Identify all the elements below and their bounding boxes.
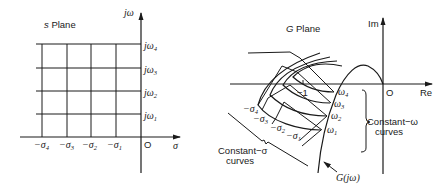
- jw-axis-label: jω: [122, 7, 134, 18]
- g-jw-pointer-arrow: [324, 162, 337, 172]
- re-axis-label: Re: [420, 87, 432, 98]
- tick-jw2: jω2: [142, 87, 158, 99]
- s-plane-grid: [36, 44, 141, 137]
- label-sigma1: −σ1: [286, 130, 301, 142]
- sigma-axis-label: σ: [173, 140, 179, 151]
- constant-sigma-label-2: curves: [226, 155, 254, 166]
- tick-jw3: jω3: [142, 64, 158, 76]
- label-omega1: ω1: [327, 124, 337, 136]
- label-sigma2: −σ2: [270, 122, 286, 134]
- label-omega4: ω4: [338, 86, 349, 98]
- tick-sigma4: −σ4: [34, 139, 50, 151]
- tick-jw4: jω4: [142, 40, 158, 52]
- s-origin-label: O: [144, 139, 151, 150]
- tick-sigma1: −σ1: [107, 139, 122, 151]
- label-sigma3: −σ3: [253, 113, 269, 125]
- s-plane-title: s Plane: [44, 19, 76, 30]
- mapping-diagram: s Plane jω σ O jω4 jω3 jω2 jω1 −σ4 −σ3 −…: [0, 0, 446, 189]
- tick-sigma2: −σ2: [82, 139, 98, 151]
- g-jw-label: G(jω): [336, 172, 360, 184]
- constant-omega-label-2: curves: [375, 126, 403, 137]
- s-plane: s Plane jω σ O jω4 jω3 jω2 jω1 −σ4 −σ3 −…: [20, 7, 180, 173]
- label-omega2: ω2: [331, 110, 342, 122]
- label-omega3: ω3: [334, 98, 345, 110]
- tick-sigma3: −σ3: [59, 139, 75, 151]
- tick-jw1: jω1: [142, 110, 157, 122]
- im-axis-label: Im: [368, 18, 379, 29]
- g-plane-title: G Plane: [286, 23, 320, 34]
- g-origin-label: O: [386, 87, 393, 98]
- g-plane: G Plane Im Re O −1: [218, 18, 432, 184]
